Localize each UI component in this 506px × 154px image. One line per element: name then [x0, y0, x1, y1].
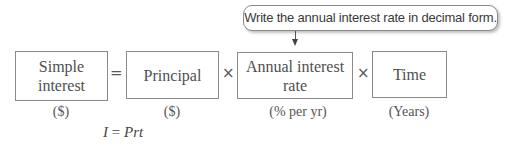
unit-label: (% per yr) — [238, 104, 358, 120]
term-line: interest — [38, 76, 85, 95]
term-label: Principal — [144, 66, 202, 85]
callout-note: Write the annual interest rate in decima… — [243, 5, 498, 31]
term-line: Simple — [38, 57, 85, 76]
term-box-time: Time — [372, 51, 447, 98]
multiply-sign: × — [222, 64, 235, 82]
term-line: rate — [246, 76, 344, 95]
formula-rhs: Prt — [124, 124, 143, 140]
callout-text: Write the annual interest rate in decima… — [244, 10, 497, 25]
unit-label: ($) — [1, 104, 121, 120]
multiply-sign: × — [357, 64, 370, 82]
term-box-principal: Principal — [126, 51, 219, 99]
unit-label: ($) — [112, 104, 232, 120]
term-label: Time — [393, 65, 426, 84]
term-line: Annual interest — [246, 57, 344, 76]
equals-sign: = — [110, 64, 123, 82]
arrow-down-icon — [292, 39, 298, 46]
formula-lhs: I — [103, 124, 108, 140]
term-box-annual-interest-rate: Annual interest rate — [237, 52, 353, 99]
term-box-simple-interest: Simple interest — [15, 51, 108, 101]
formula: I = Prt — [103, 124, 143, 141]
formula-equals: = — [112, 124, 120, 140]
unit-label: (Years) — [349, 104, 469, 120]
